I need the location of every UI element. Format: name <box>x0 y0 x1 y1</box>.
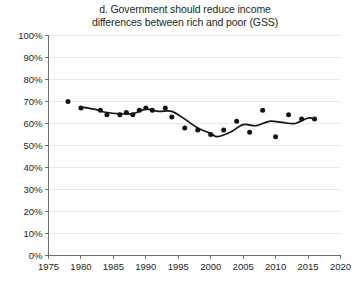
data-point <box>163 106 168 111</box>
data-point <box>104 112 109 117</box>
data-point <box>150 108 155 113</box>
data-point <box>124 110 129 115</box>
data-point <box>208 132 213 137</box>
y-axis-group: 0%10%20%30%40%50%60%70%80%90%100% <box>18 30 48 261</box>
y-tick-label: 20% <box>23 206 43 217</box>
data-point <box>286 112 291 117</box>
y-tick-label: 80% <box>23 74 43 85</box>
y-tick-label: 90% <box>23 52 43 63</box>
y-tick-label: 0% <box>29 250 43 261</box>
data-point <box>195 128 200 133</box>
chart-plot-area: 0%10%20%30%40%50%60%70%80%90%100% 197519… <box>0 0 360 286</box>
y-tick-label: 60% <box>23 118 43 129</box>
data-point <box>182 125 187 130</box>
data-point <box>299 117 304 122</box>
data-point <box>143 106 148 111</box>
data-point <box>312 117 317 122</box>
x-tick-label: 1985 <box>103 261 124 272</box>
x-axis-group: 1975198019851990199520002005201020152020 <box>38 256 351 272</box>
x-tick-label: 1975 <box>38 261 59 272</box>
x-tick-label: 1980 <box>70 261 91 272</box>
y-tick-label: 30% <box>23 184 43 195</box>
y-tick-label: 100% <box>18 30 43 41</box>
y-tick-label: 50% <box>23 140 43 151</box>
x-tick-label: 1990 <box>135 261 156 272</box>
data-point <box>221 128 226 133</box>
y-tick-label: 70% <box>23 96 43 107</box>
chart-figure: d. Government should reduce income diffe… <box>0 0 360 286</box>
x-tick-label: 2020 <box>330 261 351 272</box>
data-point <box>169 114 174 119</box>
y-tick-label: 40% <box>23 162 43 173</box>
x-tick-label: 2015 <box>297 261 318 272</box>
data-point <box>247 130 252 135</box>
data-point <box>273 134 278 139</box>
x-tick-label: 2010 <box>265 261 286 272</box>
data-point <box>130 112 135 117</box>
y-tick-label: 10% <box>23 228 43 239</box>
data-point <box>78 106 83 111</box>
data-point <box>234 119 239 124</box>
data-points-group <box>65 99 317 139</box>
x-tick-label: 1995 <box>168 261 189 272</box>
data-point <box>137 108 142 113</box>
data-point <box>65 99 70 104</box>
x-tick-label: 2005 <box>233 261 254 272</box>
x-tick-label: 2000 <box>200 261 221 272</box>
gridlines-group <box>49 36 341 256</box>
data-point <box>98 108 103 113</box>
data-point <box>260 108 265 113</box>
data-point <box>117 112 122 117</box>
